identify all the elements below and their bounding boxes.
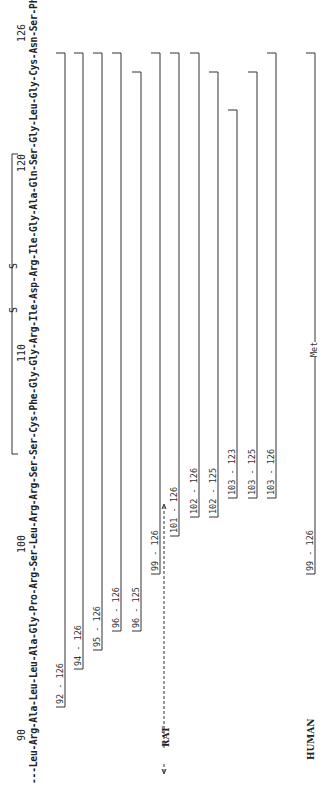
position-90: 90 — [16, 729, 27, 741]
disulfide-s-right: S — [8, 263, 19, 269]
rat-fragment-6-bracket — [170, 53, 179, 536]
rat-fragment-11-label: 103 - 126 — [266, 449, 276, 495]
human-group-label: HUMAN — [306, 718, 316, 760]
rat-fragment-8-bracket — [209, 72, 218, 517]
rat-fragment-1-bracket — [74, 53, 83, 669]
rat-group-label: RAT — [161, 726, 171, 747]
position-120: 120 — [16, 154, 27, 172]
rat-fragment-8-label: 102 - 125 — [208, 468, 218, 514]
rat-fragment-0-bracket — [56, 53, 65, 707]
human-fragment-0-bracket — [306, 53, 315, 574]
position-100: 100 — [16, 535, 27, 553]
position-126: 126 — [16, 24, 27, 42]
rat-fragment-3-bracket — [112, 53, 121, 631]
rat-fragment-9-label: 103 - 123 — [227, 449, 237, 495]
rat-fragment-0-label: 92 - 126 — [55, 663, 65, 704]
rat-fragment-2-bracket — [93, 53, 102, 650]
rat-fragment-4-bracket — [132, 72, 141, 631]
rat-fragment-9-bracket — [228, 110, 237, 498]
disulfide-bridge — [12, 154, 18, 454]
rat-fragment-3-label: 96 - 126 — [111, 587, 121, 628]
rat-fragment-4-label: 96 - 125 — [131, 587, 141, 628]
rat-fragment-11-bracket — [267, 53, 276, 498]
rat-fragment-5-bracket — [151, 53, 160, 574]
rat-fragment-7-label: 102 - 126 — [189, 468, 199, 514]
rat-fragment-2-label: 95 - 126 — [92, 606, 102, 647]
rat-fragment-1-label: 94 - 126 — [73, 625, 83, 666]
met-annotation: Met — [309, 342, 319, 357]
human-fragment-0-label: 99 - 126 — [305, 530, 315, 571]
rat-fragment-5-label: 99 - 126 — [150, 530, 160, 571]
peptide-sequence: ---Leu-Arg-Ala-Leu-Leu-Ala-Gly-Pro-Arg-S… — [28, 0, 39, 784]
rat-fragment-7-bracket — [190, 53, 199, 517]
fragment-diagram — [0, 0, 335, 786]
rat-fragment-10-bracket — [248, 72, 257, 498]
rat-fragment-6-label: 101 - 126 — [169, 487, 179, 533]
rat-fragment-10-label: 103 - 125 — [247, 449, 257, 495]
disulfide-s-left: S — [8, 307, 19, 313]
position-110: 110 — [16, 344, 27, 362]
